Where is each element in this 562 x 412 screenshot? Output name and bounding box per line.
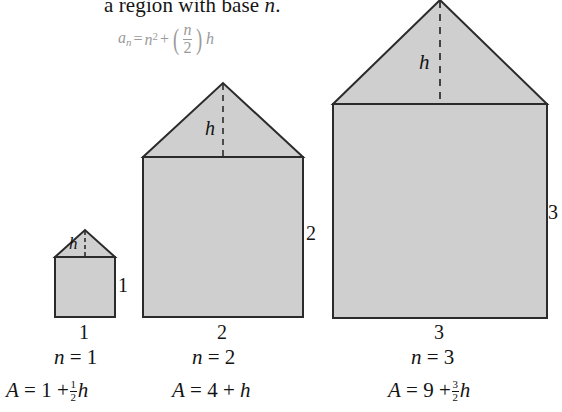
house-2-area-symbol: A — [172, 378, 185, 402]
intro-text-symbol: n — [265, 0, 276, 17]
house-3-square — [333, 104, 547, 318]
house-1-height-label: h — [69, 234, 78, 254]
house-1-area-square-term: 1 — [41, 378, 52, 402]
formula-fraction: n 2 — [183, 22, 192, 56]
formula-fraction-numerator: n — [183, 22, 191, 39]
formula-term-one: n2 — [144, 30, 157, 49]
formula-plus: + — [160, 30, 169, 48]
house-1-square — [55, 257, 115, 317]
house-3-area-fraction: 32 — [452, 379, 459, 403]
formula-trailing-h: h — [206, 30, 214, 48]
intro-text: a region with base n. — [104, 0, 281, 18]
house-3-shape — [328, 0, 554, 324]
formula-equals: = — [133, 30, 142, 48]
house-1-n-value: 1 — [87, 345, 98, 369]
house-2-area-caption: A = 4 + h — [172, 378, 251, 403]
house-3-area-plus: + — [439, 378, 451, 402]
house-2-square — [143, 157, 303, 317]
house-3-height-label: h — [419, 50, 430, 75]
house-2-area-equals: = — [190, 378, 202, 402]
general-formula: an = n2 + ( n 2 ) h — [118, 22, 214, 56]
house-3-base-label: 3 — [434, 321, 444, 344]
house-3-area-frac-den: 2 — [453, 392, 458, 403]
house-2-area-square-term: 4 — [207, 378, 218, 402]
house-1-area-frac-den: 2 — [71, 392, 76, 403]
house-1-side-label: 1 — [118, 274, 128, 297]
house-2-n-equals: = — [208, 345, 220, 369]
house-2-n-caption: n = 2 — [192, 345, 235, 370]
house-1-area-caption: A = 1 +12h — [6, 378, 88, 404]
house-3-side-label: 3 — [548, 201, 558, 224]
house-1-shape — [50, 225, 122, 323]
house-3-n-equals: = — [427, 345, 439, 369]
house-3-area-frac-num: 3 — [453, 379, 458, 390]
house-2-n-symbol: n — [192, 345, 203, 369]
house-2-n-value: 2 — [225, 345, 236, 369]
house-1-area-symbol: A — [6, 378, 19, 402]
formula-lhs: an — [118, 29, 131, 48]
house-3-area-equals: = — [406, 378, 418, 402]
house-1-base-label: 1 — [79, 321, 89, 344]
house-1-area-fraction: 12 — [70, 379, 77, 403]
house-2-side-label: 2 — [306, 222, 316, 245]
house-2-base-label: 2 — [217, 321, 227, 344]
house-1-area-equals: = — [24, 378, 36, 402]
house-1-area-plus: + — [57, 378, 69, 402]
figure-canvas: a region with base n. an = n2 + ( n 2 ) … — [0, 0, 562, 412]
house-2-area-h: h — [240, 378, 251, 402]
house-3-n-symbol: n — [411, 345, 422, 369]
house-3-area-h: h — [460, 378, 471, 402]
house-3-n-value: 3 — [444, 345, 455, 369]
house-3-area-caption: A = 9 +32h — [388, 378, 470, 404]
house-1-area-frac-num: 1 — [71, 379, 76, 390]
house-1-n-symbol: n — [54, 345, 65, 369]
formula-fraction-denominator: 2 — [183, 40, 191, 57]
house-1-area-h: h — [78, 378, 89, 402]
house-3-area-symbol: A — [388, 378, 401, 402]
house-2-height-label: h — [205, 117, 215, 140]
house-1-n-equals: = — [70, 345, 82, 369]
house-2-area-plus: + — [223, 378, 235, 402]
house-1-n-caption: n = 1 — [54, 345, 97, 370]
house-3-n-caption: n = 3 — [411, 345, 454, 370]
house-3-area-square-term: 9 — [423, 378, 434, 402]
intro-text-prefix: a region with base — [104, 0, 265, 17]
house-2-shape — [138, 78, 310, 323]
